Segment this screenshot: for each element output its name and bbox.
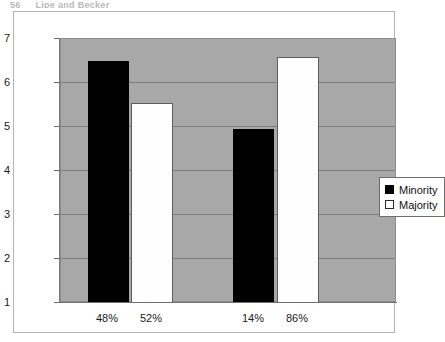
bar-minority-14 <box>233 129 274 303</box>
y-tick-5 <box>54 126 60 127</box>
x-axis-label-14: 14% <box>230 312 276 324</box>
legend-label-majority: Majority <box>399 199 438 211</box>
x-axis-line <box>59 302 397 303</box>
bar-minority-48 <box>88 61 129 303</box>
x-axis-label-52: 52% <box>128 312 174 324</box>
y-tick-2 <box>54 258 60 259</box>
y-axis-label-5: 5 <box>0 121 10 132</box>
figure-frame: Minority Majority 7 6 5 4 3 2 1 48% 52% … <box>13 11 395 333</box>
y-tick-7 <box>54 38 60 39</box>
running-header-text: Lipe and Becker <box>35 0 109 8</box>
y-axis-label-3: 3 <box>0 209 10 220</box>
x-axis-label-48: 48% <box>84 312 130 324</box>
y-tick-3 <box>54 214 60 215</box>
plot-area: Minority Majority <box>60 38 396 302</box>
legend-label-minority: Minority <box>399 184 438 196</box>
chart-legend: Minority Majority <box>379 177 445 217</box>
running-header: 56 Lipe and Becker <box>10 0 230 8</box>
bar-majority-86 <box>277 57 319 303</box>
y-axis-label-1: 1 <box>0 297 10 308</box>
running-header-page-number: 56 <box>10 0 21 8</box>
legend-item-majority: Majority <box>385 197 438 212</box>
bar-majority-52 <box>131 103 173 303</box>
y-tick-6 <box>54 82 60 83</box>
x-axis-label-86: 86% <box>274 312 320 324</box>
y-axis-label-2: 2 <box>0 253 10 264</box>
y-axis-label-4: 4 <box>0 165 10 176</box>
y-axis-label-7: 7 <box>0 33 10 44</box>
y-tick-4 <box>54 170 60 171</box>
legend-item-minority: Minority <box>385 182 438 197</box>
legend-swatch-minority-icon <box>385 185 394 194</box>
legend-swatch-majority-icon <box>385 200 394 209</box>
y-axis-label-6: 6 <box>0 77 10 88</box>
